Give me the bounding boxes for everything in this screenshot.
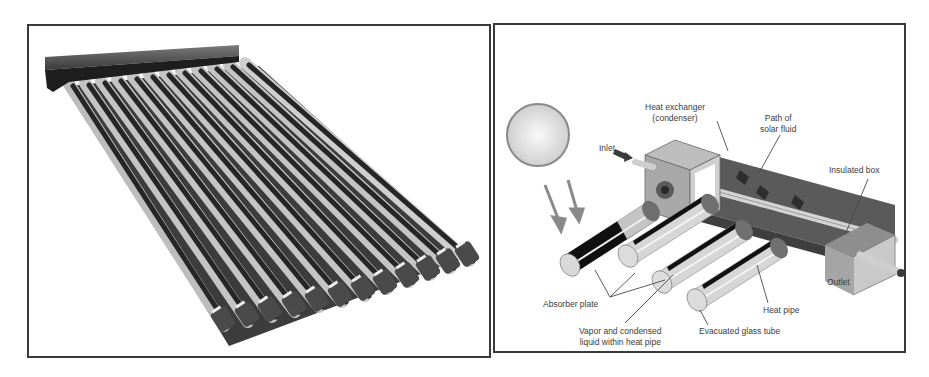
label-heat-exchanger-line2: (condenser) <box>645 113 705 124</box>
label-evacuated-glass-tube: Evacuated glass tube <box>699 326 780 337</box>
label-path-of-solar-fluid: Path of solar fluid <box>760 113 796 135</box>
label-heat-exchanger-line1: Heat exchanger <box>645 102 705 113</box>
label-heat-pipe: Heat pipe <box>763 305 799 316</box>
collector-photo-panel <box>27 24 491 358</box>
label-absorber-plate: Absorber plate <box>543 299 598 310</box>
label-path-line2: solar fluid <box>760 124 796 135</box>
label-vapor-line2: liquid within heat pipe <box>579 337 662 348</box>
label-path-line1: Path of <box>760 113 796 124</box>
evacuated-tube-collector-illustration <box>29 26 489 356</box>
label-outlet: Outlet <box>827 277 850 288</box>
sun-icon <box>507 104 569 166</box>
heat-pipe-schematic-panel: Heat exchanger (condenser) Path of solar… <box>493 23 906 353</box>
label-inlet: Inlet <box>599 143 615 154</box>
label-vapor-condensed-liquid: Vapor and condensed liquid within heat p… <box>579 326 662 348</box>
label-heat-exchanger: Heat exchanger (condenser) <box>645 102 705 124</box>
label-insulated-box: Insulated box <box>829 165 880 176</box>
label-vapor-line1: Vapor and condensed <box>579 326 662 337</box>
glass-tubes <box>69 63 481 333</box>
